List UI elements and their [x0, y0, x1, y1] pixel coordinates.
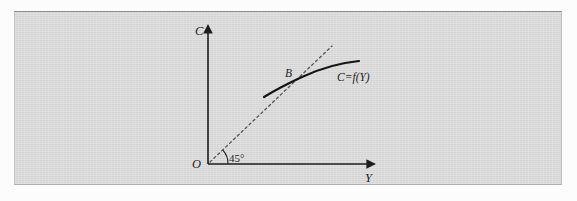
- forty-five-degree-line: [210, 46, 332, 162]
- origin-label: O: [192, 157, 201, 171]
- x-axis-label: Y: [365, 171, 374, 185]
- curve-label: C=f(Y): [337, 71, 370, 84]
- figure-panel: C O Y 45° B C=f(Y): [14, 11, 562, 185]
- angle-arc: [223, 150, 228, 164]
- angle-label: 45°: [229, 152, 244, 164]
- point-label-B: B: [285, 67, 292, 79]
- y-axis-label: C: [195, 24, 204, 38]
- consumption-function-chart: C O Y 45° B C=f(Y): [15, 12, 562, 185]
